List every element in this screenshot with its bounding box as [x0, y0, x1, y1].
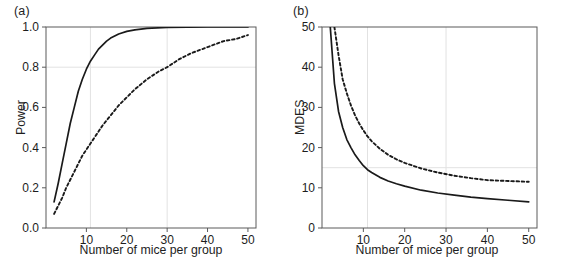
y-tick-label: 0.4 — [22, 141, 39, 155]
y-tick-label: 10 — [302, 181, 316, 195]
y-tick-label: 40 — [302, 60, 316, 74]
curve-solid — [54, 27, 248, 202]
y-tick-label: 0 — [308, 221, 315, 235]
y-tick-label: 0.8 — [22, 60, 39, 74]
x-axis-title-b: Number of mice per group — [322, 243, 532, 257]
x-axis-title-a: Number of mice per group — [46, 243, 256, 257]
plot-frame — [322, 27, 537, 228]
chart-panel-b: (b) 102030405001020304050 Number of mice… — [281, 0, 561, 270]
y-tick-label: 50 — [302, 20, 316, 34]
y-axis-title-a: Power — [14, 100, 28, 135]
y-tick-label: 20 — [302, 141, 316, 155]
y-tick-label: 0.2 — [22, 181, 39, 195]
plot-area-b: 102030405001020304050 — [281, 0, 561, 270]
y-axis-title-b: MDES — [293, 99, 307, 135]
plot-area-a: 10203040500.00.20.40.60.81.0 — [0, 0, 280, 270]
chart-panel-a: (a) 10203040500.00.20.40.60.81.0 Number … — [0, 0, 280, 270]
curve-dashed — [334, 27, 528, 182]
y-tick-label: 1.0 — [22, 20, 39, 34]
y-tick-label: 0.0 — [22, 221, 39, 235]
curve-solid — [330, 27, 528, 202]
plot-frame — [46, 27, 256, 228]
figure-container: (a) 10203040500.00.20.40.60.81.0 Number … — [0, 0, 561, 270]
curve-dashed — [54, 35, 248, 214]
